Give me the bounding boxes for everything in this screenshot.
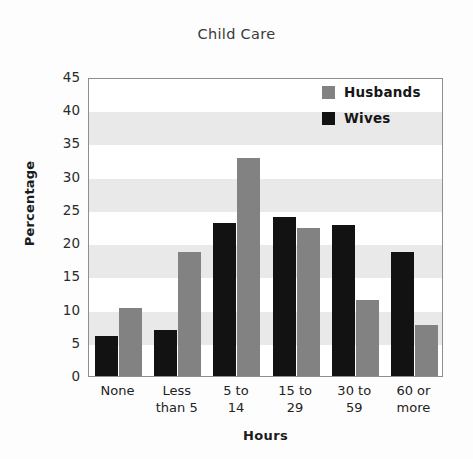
bar-husbands-4: [356, 300, 379, 376]
child-care-bar-chart: Child Care Percentage 454035302520151050…: [0, 0, 473, 459]
bar-husbands-3: [297, 228, 320, 376]
x-tick-label: 60 ormore: [384, 382, 443, 416]
bar-husbands-0: [119, 308, 142, 376]
x-tick-label-line1: 5 to: [223, 383, 248, 398]
y-tick-label: 10: [48, 302, 80, 318]
y-tick-label: 15: [48, 268, 80, 284]
x-tick-label-line1: None: [101, 383, 135, 398]
legend-swatch-icon: [322, 112, 335, 125]
x-tick-label: Lessthan 5: [147, 382, 206, 416]
y-tick-label: 35: [48, 135, 80, 151]
x-tick-label-line2: 14: [206, 399, 265, 416]
bar-wives-5: [391, 252, 414, 376]
y-tick-label: 0: [48, 368, 80, 384]
background-band: [89, 245, 442, 278]
x-tick-label-line1: Less: [162, 383, 191, 398]
y-tick-label: 5: [48, 335, 80, 351]
x-tick-label-line1: 30 to: [337, 383, 371, 398]
y-tick-label: 25: [48, 202, 80, 218]
x-tick-label-line1: 60 or: [396, 383, 430, 398]
x-tick-label: None: [88, 382, 147, 399]
legend-item-wives: Wives: [322, 110, 421, 126]
legend-label: Husbands: [344, 84, 421, 100]
bar-wives-1: [154, 330, 177, 377]
y-tick-label: 30: [48, 169, 80, 185]
legend-label: Wives: [344, 110, 391, 126]
legend-swatch-icon: [322, 86, 335, 99]
x-tick-label: 5 to14: [206, 382, 265, 416]
y-tick-label: 40: [48, 102, 80, 118]
x-axis-title: Hours: [88, 428, 443, 443]
x-tick-label-line2: 59: [325, 399, 384, 416]
y-axis-title: Percentage: [22, 134, 37, 274]
bar-wives-2: [213, 223, 236, 376]
x-tick-label-line2: more: [384, 399, 443, 416]
x-tick-label-line2: than 5: [147, 399, 206, 416]
x-axis-tick-labels: NoneLessthan 55 to1415 to2930 to5960 orm…: [88, 382, 443, 428]
y-tick-label: 20: [48, 235, 80, 251]
x-tick-label-line2: 29: [266, 399, 325, 416]
y-tick-label: 45: [48, 69, 80, 85]
bar-husbands-1: [178, 252, 201, 376]
bar-wives-4: [332, 225, 355, 376]
chart-legend: HusbandsWives: [322, 84, 421, 126]
bar-husbands-2: [237, 158, 260, 376]
x-tick-label: 30 to59: [325, 382, 384, 416]
bar-wives-0: [95, 336, 118, 376]
legend-item-husbands: Husbands: [322, 84, 421, 100]
x-tick-label-line1: 15 to: [278, 383, 312, 398]
bar-wives-3: [273, 217, 296, 376]
y-axis-tick-labels: 454035302520151050: [48, 0, 80, 459]
background-band: [89, 179, 442, 212]
bar-husbands-5: [415, 325, 438, 376]
x-tick-label: 15 to29: [266, 382, 325, 416]
